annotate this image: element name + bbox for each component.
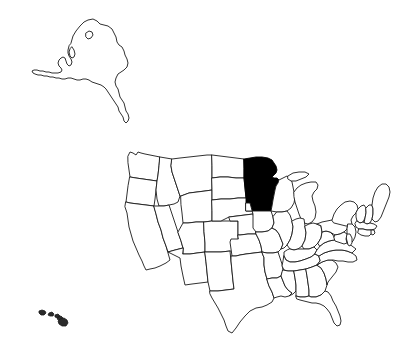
state-oregon[interactable] [126, 177, 157, 206]
state-washington[interactable] [128, 152, 160, 181]
us-map-figure [0, 0, 404, 354]
us-states-map [0, 0, 404, 354]
state-south-dakota[interactable] [212, 177, 246, 200]
state-new-mexico[interactable] [205, 251, 234, 291]
hawaii-island-kauai [39, 310, 46, 315]
state-wyoming[interactable] [181, 190, 212, 223]
state-north-dakota[interactable] [212, 155, 244, 178]
hawaii-island-big-island [58, 318, 68, 326]
